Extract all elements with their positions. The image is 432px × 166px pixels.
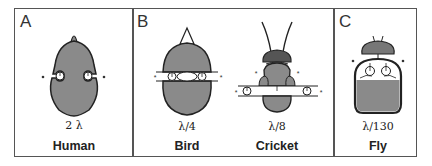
human-ratio: 2 λ (65, 119, 82, 132)
svg-text:*: * (235, 89, 238, 96)
fly-head-icon (352, 36, 405, 113)
human-head-icon (42, 36, 106, 116)
fly-ratio: λ/130 (362, 120, 394, 133)
cricket-head-icon: * * * * (235, 22, 323, 112)
fly-label: Fly (369, 139, 387, 153)
svg-text:*: * (154, 74, 157, 81)
svg-text:*: * (320, 89, 323, 96)
cricket-ratio: λ/8 (268, 120, 286, 133)
svg-text:*: * (255, 70, 258, 77)
svg-text:*: * (220, 74, 223, 81)
bird-head-icon: * * (154, 28, 223, 115)
bird-ratio: λ/4 (178, 120, 196, 133)
svg-text:*: * (297, 70, 300, 77)
human-label: Human (53, 139, 95, 153)
cricket-label: Cricket (256, 139, 298, 153)
bird-label: Bird (175, 139, 200, 153)
